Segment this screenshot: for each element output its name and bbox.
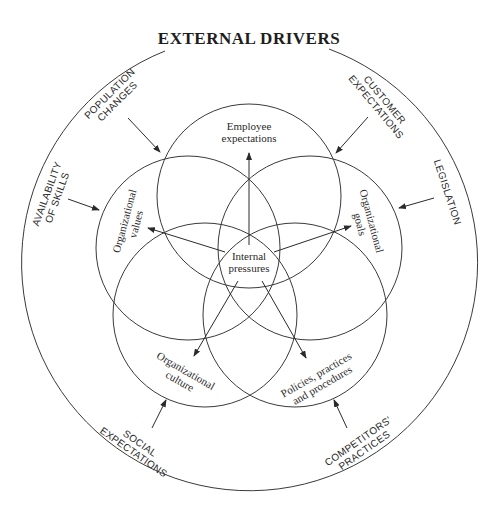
circle-organizational-values bbox=[96, 156, 280, 340]
label-availability-of-skills: AVAILABILITY OF SKILLS bbox=[30, 160, 74, 231]
external-drivers-diagram: EXTERNAL DRIVERS Internal pressures Empl… bbox=[0, 0, 499, 518]
label-employee-expectations: Employee expectations bbox=[222, 120, 277, 144]
svg-text:pressures: pressures bbox=[229, 262, 270, 274]
svg-text:Employee: Employee bbox=[227, 120, 272, 132]
arrow-from-customer bbox=[336, 117, 368, 153]
arrow-from-skills bbox=[68, 199, 99, 210]
center-label-internal-pressures: Internal pressures bbox=[229, 250, 270, 274]
arrow-from-population bbox=[128, 118, 160, 152]
diagram-title: EXTERNAL DRIVERS bbox=[158, 29, 340, 48]
label-legislation: LEGISLATION bbox=[432, 158, 464, 226]
arrow-to-policies bbox=[262, 281, 306, 358]
arrow-to-values bbox=[148, 228, 225, 252]
label-social-expectations: SOCIAL EXPECTATIONS bbox=[98, 416, 176, 480]
arrow-from-competitors bbox=[334, 400, 347, 428]
svg-text:expectations: expectations bbox=[222, 132, 277, 144]
arrow-to-goals bbox=[274, 226, 351, 252]
svg-text:LEGISLATION: LEGISLATION bbox=[432, 158, 464, 226]
svg-text:Internal: Internal bbox=[232, 250, 266, 262]
arrow-from-social bbox=[152, 400, 166, 428]
label-policies-practices-procedures: Policies, practices and procedures bbox=[279, 349, 360, 409]
label-organizational-goals: Organizational goals bbox=[346, 188, 386, 257]
label-population-changes: POPULATION CHANGES bbox=[82, 66, 145, 129]
arrow-from-legislation bbox=[399, 198, 434, 208]
label-competitors-practices: COMPETITORS' PRACTICES bbox=[323, 414, 400, 477]
arrow-to-culture bbox=[194, 281, 238, 356]
